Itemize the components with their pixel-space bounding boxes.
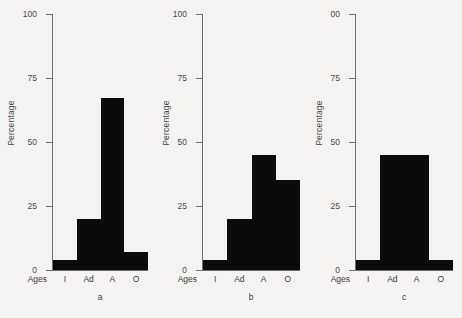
y-tick-label-c-75: 75 <box>331 73 340 83</box>
x-tick-c-Ad: Ad <box>380 271 404 284</box>
panel-caption-a: a <box>52 292 148 302</box>
chart-panel-b: Percentage 0 25 50 75 100 <box>152 0 306 318</box>
x-axis-label-a: Ages <box>28 274 47 284</box>
y-tick-b-25: 25 <box>196 206 202 207</box>
x-tick-b-O: O <box>276 271 300 284</box>
panel-caption-b: b <box>202 292 300 302</box>
y-tick-label-c-100: 00 <box>331 9 340 19</box>
y-tick-label-b-25: 25 <box>178 201 187 211</box>
figure-three-panel-bar-charts: Percentage 0 25 50 75 100 <box>0 0 462 318</box>
bar-b-A <box>252 155 276 270</box>
y-tick-b-100: 100 <box>196 14 202 15</box>
x-tick-c-A: A <box>405 271 429 284</box>
y-axis-label-c: Percentage <box>314 87 324 159</box>
bar-c-I <box>356 260 380 270</box>
y-tick-b-75: 75 <box>196 78 202 79</box>
chart-panel-c: Percentage 0 25 50 75 00 <box>305 0 459 318</box>
y-tick-label-a-50: 50 <box>28 137 37 147</box>
x-tick-a-Ad: Ad <box>77 271 101 284</box>
y-tick-label-b-100: 100 <box>173 9 187 19</box>
y-tick-a-50: 50 <box>46 142 52 143</box>
y-tick-b-0: 0 <box>196 270 202 271</box>
x-tick-a-A: A <box>101 271 125 284</box>
x-tick-b-Ad: Ad <box>227 271 251 284</box>
y-tick-a-0: 0 <box>46 270 52 271</box>
x-tick-b-A: A <box>252 271 276 284</box>
x-axis-label-c: Ages <box>331 274 350 284</box>
x-axis-label-b: Ages <box>178 274 197 284</box>
bar-group-c <box>356 14 453 270</box>
y-axis-label-a: Percentage <box>6 87 16 159</box>
y-tick-b-50: 50 <box>196 142 202 143</box>
y-tick-label-c-50: 50 <box>331 137 340 147</box>
bar-c-O <box>429 260 453 270</box>
bar-c-Ad <box>380 155 404 270</box>
x-tick-group-c: I Ad A O <box>356 271 453 284</box>
y-tick-c-25: 25 <box>349 206 355 207</box>
bar-a-Ad <box>77 219 101 270</box>
y-axis-label-b: Percentage <box>161 87 171 159</box>
x-tick-group-a: I Ad A O <box>53 271 148 284</box>
y-tick-label-c-25: 25 <box>331 201 340 211</box>
bar-group-a <box>53 14 148 270</box>
panel-caption-c: c <box>355 292 453 302</box>
y-tick-label-b-50: 50 <box>178 137 187 147</box>
bar-a-A <box>101 98 125 270</box>
chart-panel-a: Percentage 0 25 50 75 100 <box>0 0 154 318</box>
plot-area-a: 0 25 50 75 100 Ages I Ad <box>52 14 148 270</box>
x-tick-c-O: O <box>429 271 453 284</box>
y-tick-c-50: 50 <box>349 142 355 143</box>
y-tick-label-a-100: 100 <box>23 9 37 19</box>
x-tick-c-I: I <box>356 271 380 284</box>
bar-a-O <box>124 252 148 270</box>
bar-b-Ad <box>227 219 251 270</box>
bar-c-A <box>405 155 429 270</box>
bar-group-b <box>203 14 300 270</box>
y-tick-label-a-25: 25 <box>28 201 37 211</box>
y-tick-a-25: 25 <box>46 206 52 207</box>
y-tick-label-b-75: 75 <box>178 73 187 83</box>
x-tick-group-b: I Ad A O <box>203 271 300 284</box>
plot-area-c: 0 25 50 75 00 Ages I Ad <box>355 14 453 270</box>
x-tick-b-I: I <box>203 271 227 284</box>
plot-area-b: 0 25 50 75 100 Ages I Ad <box>202 14 300 270</box>
y-tick-c-0: 0 <box>349 270 355 271</box>
y-tick-c-75: 75 <box>349 78 355 79</box>
y-tick-label-a-75: 75 <box>28 73 37 83</box>
bar-b-I <box>203 260 227 270</box>
x-tick-a-O: O <box>124 271 148 284</box>
bar-a-I <box>53 260 77 270</box>
y-tick-c-100: 00 <box>349 14 355 15</box>
x-tick-a-I: I <box>53 271 77 284</box>
bar-b-O <box>276 180 300 270</box>
y-tick-a-100: 100 <box>46 14 52 15</box>
y-tick-a-75: 75 <box>46 78 52 79</box>
